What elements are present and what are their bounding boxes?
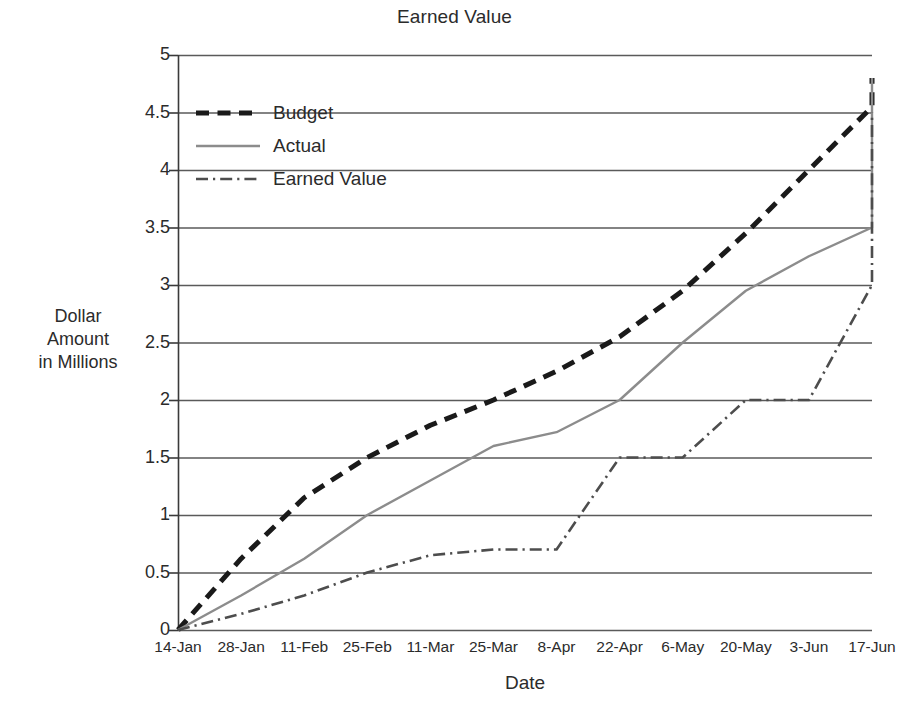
legend-item-actual[interactable]: Actual [196,129,387,162]
chart-legend: BudgetActualEarned Value [196,96,387,195]
x-tick-label: 6-May [648,638,718,656]
x-tick-label: 17-Jun [837,638,907,656]
plot-area [0,0,909,720]
legend-swatch-dash-dot-icon [196,172,260,186]
x-tick-label: 25-Feb [332,638,402,656]
legend-swatch-dashed-icon [196,106,260,120]
x-tick-label: 20-May [711,638,781,656]
legend-swatch-solid-icon [196,139,260,153]
x-axis-title: Date [178,672,872,694]
x-tick-label: 11-Mar [395,638,465,656]
x-tick-label: 28-Jan [206,638,276,656]
x-tick-label: 11-Feb [269,638,339,656]
legend-item-earned-value[interactable]: Earned Value [196,162,387,195]
legend-label: Earned Value [273,168,387,190]
legend-label: Budget [273,102,333,124]
x-tick-label: 8-Apr [522,638,592,656]
legend-item-budget[interactable]: Budget [196,96,387,129]
x-tick-label: 14-Jan [143,638,213,656]
x-tick-label: 3-Jun [774,638,844,656]
chart-page: Earned Value Dollar Amount in Millions 0… [0,0,909,720]
legend-label: Actual [273,135,326,157]
x-tick-label: 22-Apr [585,638,655,656]
x-tick-label: 25-Mar [458,638,528,656]
